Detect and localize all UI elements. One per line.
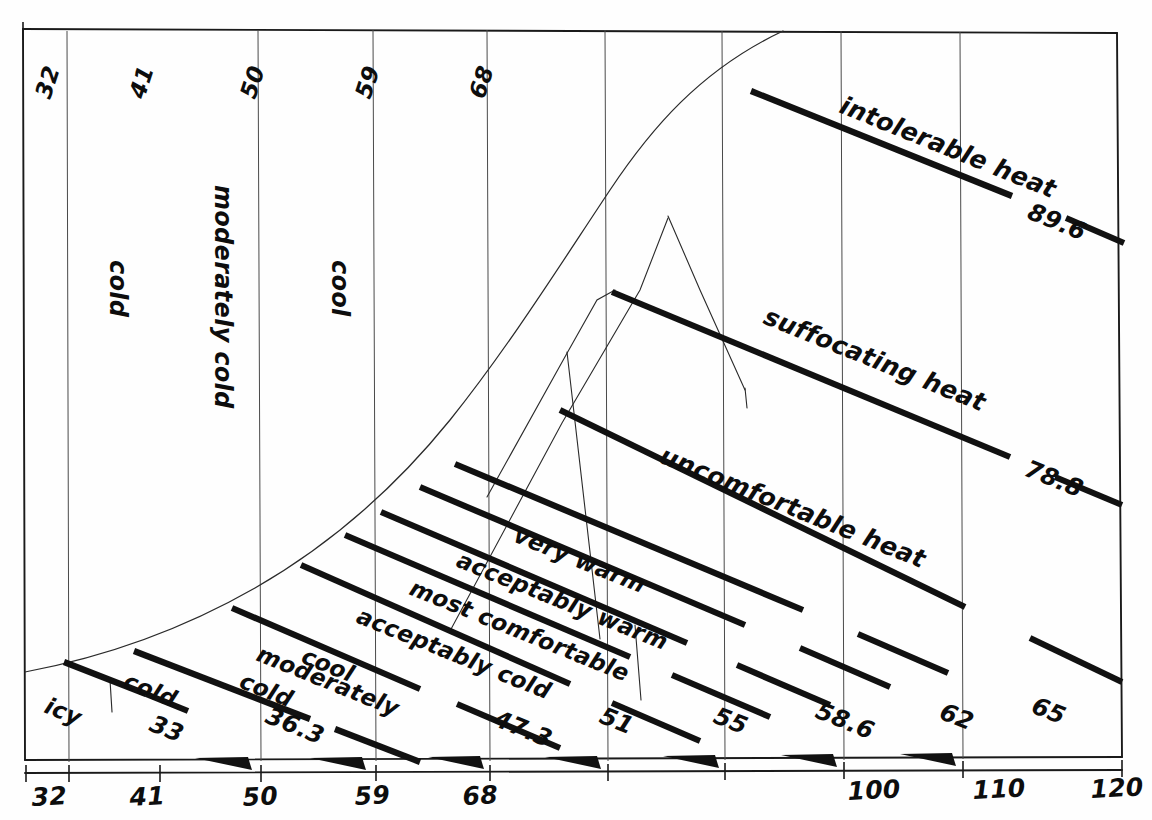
arrow-mark-4 — [545, 756, 601, 769]
value-473: 47.3 — [489, 704, 556, 753]
value-896: 89.6 — [1024, 198, 1091, 247]
bottom-axis-label-5: 100 — [847, 774, 902, 806]
envelope-curve — [25, 31, 783, 672]
comfort-chart-root: 32 41 50 59 68 32 41 50 59 68 100 110 12… — [0, 0, 1152, 820]
vertical-label-cool: cool — [326, 260, 354, 317]
gridline-41 — [67, 31, 69, 762]
bottom-axis-label-4: 68 — [462, 780, 499, 811]
gridline-86 — [722, 31, 725, 760]
arrow-mark-5 — [663, 755, 719, 768]
band-line-33-dash — [335, 729, 420, 762]
vertical-gridlines — [67, 30, 963, 762]
vertical-label-moderately-cold: moderately cold — [209, 185, 237, 409]
top-axis-label-3: 59 — [350, 62, 385, 101]
top-axis-label-1: 41 — [124, 62, 159, 102]
vertical-label-cold: cold — [104, 260, 132, 318]
arrow-mark-3 — [428, 756, 484, 769]
thin-line-g — [110, 680, 112, 712]
heat-label-uncomfortable: uncomfortable heat — [656, 441, 931, 575]
axis-arrow-marks — [195, 753, 956, 770]
curve-main — [25, 31, 783, 672]
frame-left — [23, 29, 25, 760]
bottom-axis-label-7: 120 — [1090, 772, 1145, 804]
top-axis-label-4: 68 — [464, 62, 499, 101]
bottom-axis-label-6: 110 — [972, 773, 1027, 805]
gridline-100 — [841, 31, 844, 760]
value-51: 51 — [596, 702, 638, 741]
thin-line-e — [745, 388, 747, 408]
band-line-55-dash — [737, 665, 830, 705]
arrow-mark-1 — [195, 757, 252, 770]
value-33: 33 — [146, 710, 188, 749]
bottom-axis-labels: 32 41 50 59 68 100 110 120 — [31, 772, 1145, 812]
thin-line-d — [668, 216, 745, 390]
value-788: 78.8 — [1021, 455, 1088, 504]
heat-label-intolerable: intolerable heat — [836, 91, 1061, 205]
arrow-mark-2 — [310, 757, 366, 770]
value-65: 65 — [1028, 692, 1070, 731]
band-line-62-dash — [858, 634, 948, 673]
frame-top — [23, 29, 1117, 33]
value-62: 62 — [936, 698, 978, 737]
arrow-mark-6 — [781, 754, 837, 767]
arrow-mark-7 — [900, 753, 956, 766]
value-586: 58.6 — [812, 697, 879, 746]
bottom-axis-label-3: 59 — [354, 780, 391, 811]
bottom-axis-label-2: 50 — [242, 781, 279, 812]
gridline-59 — [373, 30, 376, 761]
band-label-cold: cold — [120, 668, 181, 713]
bottom-axis-label-0: 32 — [31, 781, 68, 812]
frame-right — [1117, 33, 1122, 757]
band-labels: very warm acceptably warm most comfortab… — [41, 522, 672, 731]
top-axis-labels: 32 41 50 59 68 — [30, 62, 499, 102]
band-line-586-dash — [800, 648, 890, 687]
axis-bottom-line — [25, 770, 1122, 773]
top-axis-label-2: 50 — [235, 62, 270, 101]
vertical-zone-labels: cold moderately cold cool — [104, 185, 354, 409]
top-axis-label-0: 32 — [30, 62, 65, 101]
thin-line-a — [487, 290, 615, 497]
chart-canvas: 32 41 50 59 68 32 41 50 59 68 100 110 12… — [0, 0, 1152, 820]
value-363: 36.3 — [262, 702, 329, 751]
band-label-icy: icy — [41, 693, 86, 731]
bottom-axis-label-1: 41 — [128, 781, 166, 812]
band-line-65-dash — [1030, 638, 1122, 682]
